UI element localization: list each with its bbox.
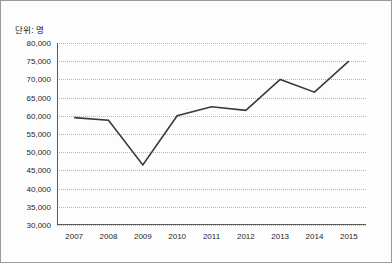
x-axis-tick-label: 2007 <box>65 232 83 241</box>
unit-label: 단위: 명 <box>15 23 44 35</box>
y-axis-tick-label: 50,000 <box>27 148 51 157</box>
y-axis-tick-label: 70,000 <box>27 75 51 84</box>
chart-figure: 단위: 명 80,00075,00070,00065,00060,00055,0… <box>0 0 392 263</box>
y-axis-tick-label: 35,000 <box>27 202 51 211</box>
x-axis-tick-label: 2014 <box>306 232 324 241</box>
y-axis-tick-label: 45,000 <box>27 166 51 175</box>
x-axis-tick-label: 2008 <box>100 232 118 241</box>
data-series-line <box>57 43 366 225</box>
gridline <box>57 225 366 226</box>
x-axis-tick-label: 2009 <box>134 232 152 241</box>
y-axis-tick-label: 65,000 <box>27 93 51 102</box>
x-axis-tick-label: 2010 <box>168 232 186 241</box>
x-axis-tick-label: 2013 <box>271 232 289 241</box>
y-axis-tick-label: 60,000 <box>27 111 51 120</box>
series-polyline <box>74 61 349 165</box>
plot-area: 80,00075,00070,00065,00060,00055,00050,0… <box>57 43 366 225</box>
y-axis-tick-label: 30,000 <box>27 221 51 230</box>
x-axis-tick-label: 2015 <box>340 232 358 241</box>
y-axis-tick-label: 40,000 <box>27 184 51 193</box>
x-axis-tick-label: 2012 <box>237 232 255 241</box>
y-axis-tick-label: 55,000 <box>27 130 51 139</box>
y-axis-tick-label: 75,000 <box>27 57 51 66</box>
x-axis-tick-label: 2011 <box>203 232 220 241</box>
y-axis-tick-label: 80,000 <box>27 39 51 48</box>
